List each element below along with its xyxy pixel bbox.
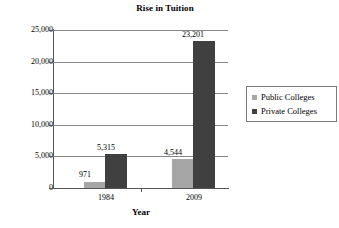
legend-item-private: Private Colleges <box>252 104 336 118</box>
legend-swatch-icon-public <box>252 95 257 100</box>
y-tick-label-15000: 15,000 <box>7 89 53 97</box>
plot-area <box>53 30 228 188</box>
legend-item-public: Public Colleges <box>252 90 336 104</box>
x-tick-mark-mid <box>141 188 142 192</box>
bar-value-label-private-1984: 5,315 <box>85 143 127 152</box>
bar-value-label-private-2009: 23,201 <box>172 30 214 39</box>
y-tick-label-20000: 20,000 <box>7 58 53 66</box>
bar-private-1984 <box>105 154 127 188</box>
bar-private-2009 <box>193 41 215 188</box>
legend: Public Colleges Private Colleges <box>246 86 337 122</box>
chart-title: Rise in Tuition <box>40 3 290 13</box>
x-axis-title: Year <box>53 207 229 217</box>
bar-chart: Rise in Tuition 25,000 20,000 15,000 10,… <box>0 0 339 228</box>
legend-swatch-icon-private <box>252 109 257 114</box>
y-axis-ticks: 25,000 20,000 15,000 10,000 5,000 0 <box>0 0 53 228</box>
legend-label-public: Public Colleges <box>261 92 315 102</box>
y-tick-label-10000: 10,000 <box>7 121 53 129</box>
x-tick-label-1984: 1984 <box>84 193 128 202</box>
x-tick-label-2009: 2009 <box>172 193 216 202</box>
bar-public-1984 <box>84 182 105 188</box>
legend-label-private: Private Colleges <box>261 106 317 116</box>
y-tick-label-0: 0 <box>7 184 53 192</box>
bar-value-label-public-2009: 4,544 <box>152 148 194 157</box>
bar-public-2009 <box>172 159 193 188</box>
y-tick-label-5000: 5,000 <box>7 152 53 160</box>
bar-value-label-public-1984: 971 <box>64 170 106 179</box>
y-tick-label-25000: 25,000 <box>7 26 53 34</box>
